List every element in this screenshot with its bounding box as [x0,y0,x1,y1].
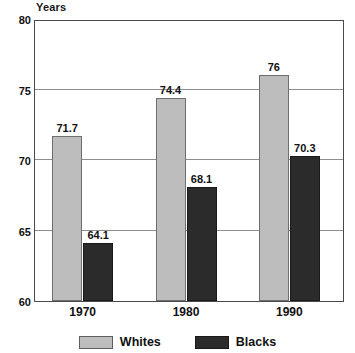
legend-swatch-whites-icon [79,336,113,349]
bar-whites-1970 [52,136,82,301]
y-axis-unit-label: Years [36,1,66,13]
bar-whites-1980 [156,98,186,301]
bar-value-label: 68.1 [181,173,223,185]
y-tick-label: 65 [1,226,31,238]
bar-blacks-1980 [187,187,217,301]
legend-label: Whites [120,335,161,349]
bar-value-label: 76 [253,61,295,73]
bar-value-label: 64.1 [77,229,119,241]
x-axis-tick-labels: 197019801990 [34,305,344,325]
bar-value-label: 71.7 [46,122,88,134]
x-tick-label-1990: 1990 [259,305,319,319]
y-axis-tick-labels: 6065707580 [0,0,31,353]
bars-layer: 71.764.174.468.17670.3 [35,21,343,301]
bar-blacks-1970 [83,243,113,301]
y-tick-label: 60 [1,296,31,308]
bar-value-label: 74.4 [150,84,192,96]
bar-value-label: 70.3 [284,142,326,154]
y-tick-label: 70 [1,155,31,167]
legend-swatch-blacks-icon [195,336,229,349]
bar-blacks-1990 [290,156,320,301]
bar-chart: Years 6065707580 71.764.174.468.17670.3 … [0,0,355,353]
y-tick-label: 80 [1,14,31,26]
legend-item-blacks[interactable]: Blacks [195,335,276,349]
y-tick-label: 75 [1,85,31,97]
legend-item-whites[interactable]: Whites [79,335,161,349]
plot-area: 71.764.174.468.17670.3 [34,20,344,302]
x-tick-label-1970: 1970 [53,305,113,319]
legend-label: Blacks [236,335,276,349]
x-tick-label-1980: 1980 [156,305,216,319]
bar-whites-1990 [259,75,289,301]
chart-legend: WhitesBlacks [0,332,355,352]
